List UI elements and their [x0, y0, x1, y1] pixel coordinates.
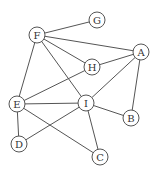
edge-a-b	[131, 52, 141, 118]
graph-diagram: FGAHEIBDC	[0, 0, 158, 172]
node-i: I	[78, 95, 94, 111]
node-label: E	[13, 99, 20, 110]
node-c: C	[92, 149, 108, 165]
node-label: B	[127, 113, 134, 124]
node-g: G	[89, 12, 105, 28]
edge-f-g	[37, 20, 97, 35]
node-label: A	[136, 47, 145, 58]
nodes-layer: FGAHEIBDC	[9, 12, 149, 165]
node-label: I	[84, 98, 88, 109]
node-label: F	[34, 30, 41, 41]
edge-f-e	[17, 35, 37, 104]
node-b: B	[123, 110, 139, 126]
edge-i-d	[19, 103, 86, 144]
node-a: A	[133, 44, 149, 60]
node-d: D	[11, 136, 27, 152]
node-label: H	[88, 62, 97, 73]
edge-e-c	[17, 104, 100, 157]
node-f: F	[29, 27, 45, 43]
node-label: G	[93, 15, 101, 26]
node-label: C	[96, 152, 104, 163]
edge-f-i	[37, 35, 86, 103]
node-h: H	[84, 59, 100, 75]
node-label: D	[15, 139, 23, 150]
edge-e-i	[17, 103, 86, 104]
node-e: E	[9, 96, 25, 112]
